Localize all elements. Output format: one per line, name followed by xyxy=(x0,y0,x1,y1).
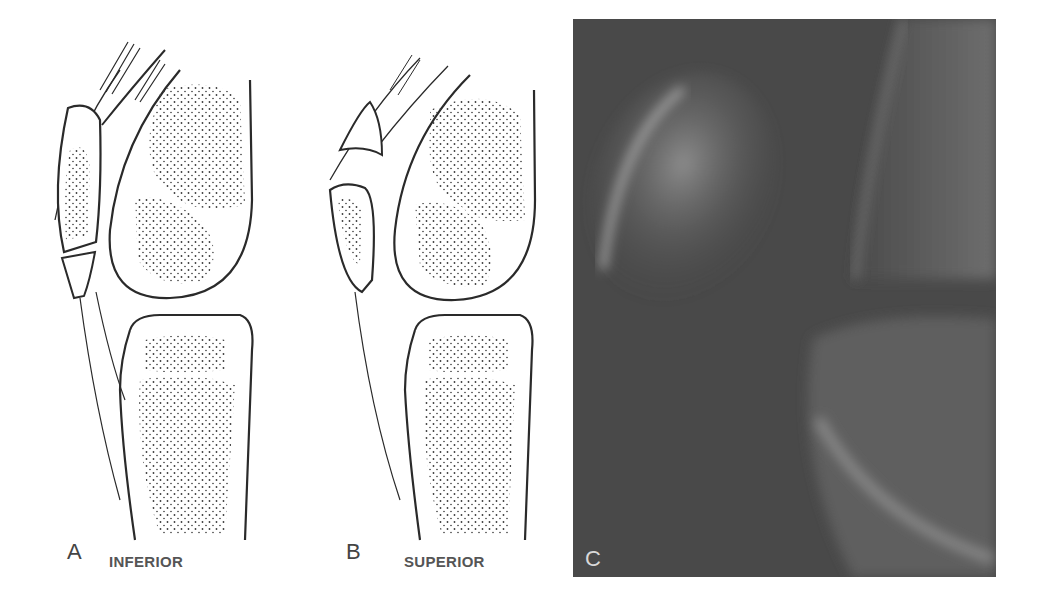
panel-caption-a: INFERIOR xyxy=(109,553,183,570)
illustration-superior xyxy=(320,30,560,550)
panel-letter-c: C xyxy=(585,546,601,572)
radiograph-image xyxy=(573,19,996,577)
panel-letter-b: B xyxy=(346,539,361,565)
panel-letter-a: A xyxy=(67,539,82,565)
illustration-inferior xyxy=(40,30,280,550)
panel-caption-b: SUPERIOR xyxy=(404,553,485,570)
